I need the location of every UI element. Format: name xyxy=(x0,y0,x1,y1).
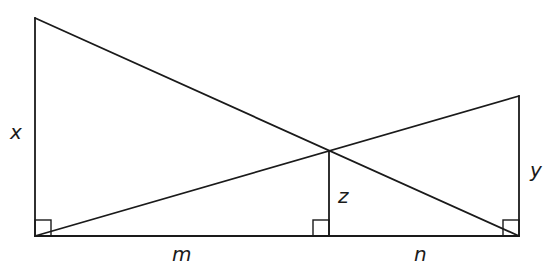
diagonal-left-top-to-right-bottom xyxy=(35,18,519,236)
right-angle-marker-right xyxy=(503,220,519,236)
label-n: n xyxy=(414,244,427,264)
label-y: y xyxy=(530,160,542,180)
diagonal-left-bottom-to-right-top xyxy=(35,96,519,236)
right-angle-marker-middle xyxy=(313,220,329,236)
label-x: x xyxy=(10,122,22,142)
label-m: m xyxy=(172,244,191,264)
label-z: z xyxy=(338,186,349,206)
geometry-diagram xyxy=(0,0,553,280)
